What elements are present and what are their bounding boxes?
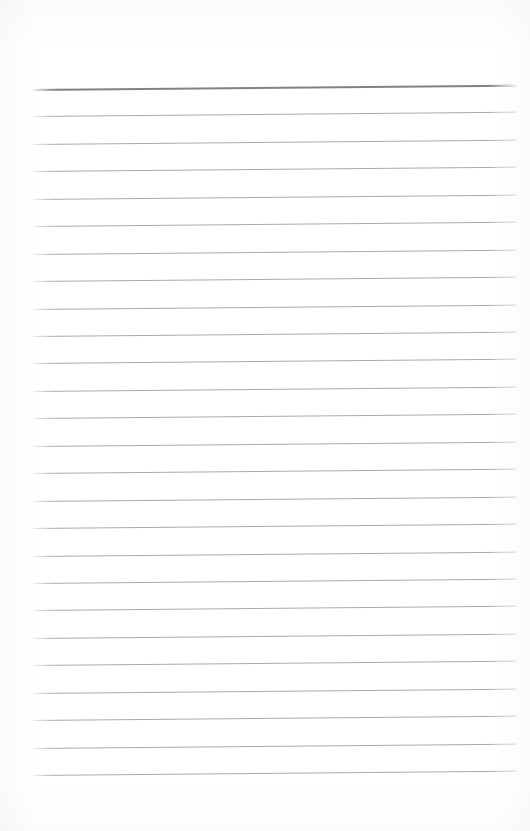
lined-paper-page — [0, 0, 530, 831]
writing-area — [30, 89, 516, 775]
